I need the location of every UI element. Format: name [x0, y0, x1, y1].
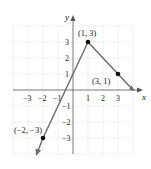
- y-tick: −3: [62, 134, 71, 143]
- point-label-3-1: (3, 1): [92, 76, 111, 86]
- y-tick: 2: [65, 54, 69, 63]
- x-tick: 1: [86, 94, 90, 103]
- point-label-neg2-neg3: (−2, −3): [14, 125, 42, 135]
- y-tick: 1: [65, 70, 69, 79]
- y-tick: −1: [62, 102, 71, 111]
- y-axis-arrow-icon: [71, 15, 76, 21]
- y-tick-labels: 3 2 1 −1 −2 −3: [62, 38, 71, 143]
- x-tick: 3: [116, 94, 120, 103]
- x-axis-label: x: [141, 92, 146, 102]
- y-axis-label: y: [64, 12, 69, 22]
- point-3-1: [116, 72, 121, 77]
- y-tick: 3: [65, 38, 69, 47]
- x-tick-labels: −3 −2 −1 1 2 3: [23, 94, 120, 103]
- point-1-3: [86, 40, 91, 45]
- x-tick: 2: [101, 94, 105, 103]
- x-tick: −2: [38, 94, 47, 103]
- point-label-1-3: (1, 3): [78, 28, 97, 38]
- x-tick: −3: [23, 94, 32, 103]
- y-tick: −2: [62, 118, 71, 127]
- point-neg2-neg3: [41, 136, 46, 141]
- graph: x y −3 −2 −1 1 2 3 3 2 1 −1 −2 −3 (1, 3)…: [0, 0, 151, 169]
- line-arrow-icon: [36, 149, 42, 157]
